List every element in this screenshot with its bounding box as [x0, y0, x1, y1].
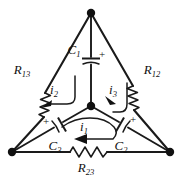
node-dot-bottom-right-vertex [166, 148, 174, 156]
circuit-diagram-figure: R13 R12 R23 [0, 0, 182, 176]
node-dot-top-vertex [87, 9, 95, 17]
C1-plus-sign: + [99, 48, 105, 60]
resistor-R13-label: R13 [13, 62, 30, 79]
C3-plus-sign: + [43, 115, 49, 127]
capacitor-C3-label: C3 [49, 138, 62, 155]
left-edge-wire-lower [12, 117, 44, 152]
mesh-current-i1-label: i1 [80, 119, 88, 136]
resistor-R23-label: R23 [77, 160, 94, 176]
bottom-edge-branch-R23: R23 [12, 147, 170, 176]
node-dot-center [87, 102, 95, 110]
resistor-R23-zigzag [70, 147, 107, 157]
i1-loop-arc [62, 118, 116, 139]
right-edge-wire-upper [91, 13, 133, 86]
capacitor-C2-label: C2 [115, 138, 129, 155]
capacitor-C1-label: C1 [68, 42, 81, 59]
mesh-current-i1-indicator: i1 [62, 118, 116, 144]
mesh-current-i3-indicator: i3 [105, 82, 127, 112]
resistor-R12-label: R12 [143, 62, 161, 79]
center-branch-C2: C2 + [91, 106, 170, 155]
circuit-schematic-canvas: R13 R12 R23 [0, 0, 182, 176]
C2-wire-right [128, 128, 170, 153]
C2-wire-left [91, 106, 119, 122]
mesh-current-i3-label: i3 [109, 82, 117, 99]
right-edge-wire-lower [134, 110, 170, 152]
node-dot-bottom-left-vertex [8, 148, 16, 156]
C2-plate-left [116, 118, 124, 132]
C2-plus-sign: + [130, 113, 136, 125]
mesh-current-i2-label: i2 [50, 82, 59, 99]
C3-plate-left-curve [52, 121, 59, 132]
right-edge-branch-R12: R12 [91, 13, 170, 152]
resistor-R12-zigzag [127, 86, 139, 110]
